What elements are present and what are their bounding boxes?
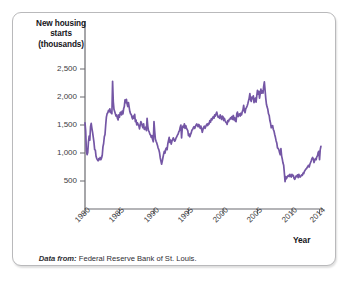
source-label: Data from: xyxy=(39,254,77,263)
axis-lines xyxy=(85,21,323,209)
figure-frame: New housing starts (thousands) Year 5001… xyxy=(12,12,336,266)
source-note: Data from: Federal Reserve Bank of St. L… xyxy=(26,245,197,266)
y-axis-title: New housing starts (thousands) xyxy=(23,19,99,50)
chart-canvas xyxy=(13,13,336,266)
y-tick-label: 1,000 xyxy=(43,148,77,157)
source-text: Federal Reserve Bank of St. Louis. xyxy=(77,254,197,263)
x-axis-title: Year xyxy=(293,235,310,245)
chart-plot-area: New housing starts (thousands) Year 5001… xyxy=(13,13,336,266)
y-tick-label: 2,500 xyxy=(43,64,77,73)
housing-starts-line xyxy=(85,81,321,181)
y-tick-label: 500 xyxy=(43,176,77,185)
y-tick-label: 1,500 xyxy=(43,120,77,129)
y-tick-label: 2,000 xyxy=(43,92,77,101)
tick-marks xyxy=(80,69,320,214)
